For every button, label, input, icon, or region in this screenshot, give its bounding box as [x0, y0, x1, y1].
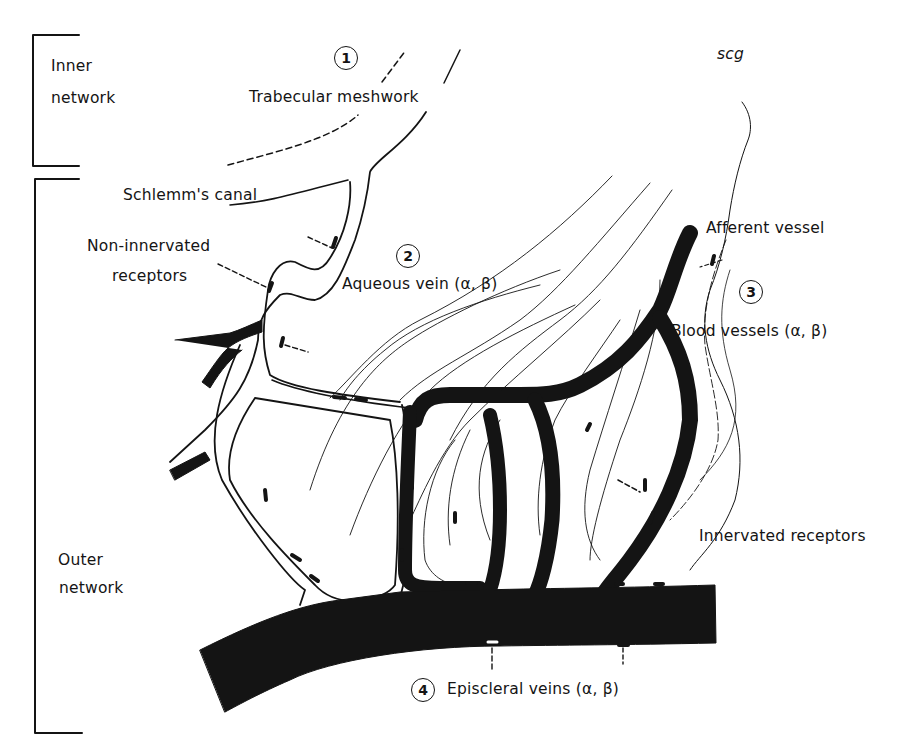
aqueous-loop-left: [229, 398, 398, 601]
trabecular-dash-1: [228, 115, 358, 165]
outer-network-label-line2: network: [59, 578, 123, 598]
outer-network-bracket: [35, 179, 82, 733]
afferent-vessel-label: Afferent vessel: [706, 218, 825, 238]
black-branch-vessel: [175, 320, 262, 388]
trabecular-line: [444, 50, 460, 83]
outflow-diagram: [0, 0, 923, 754]
pointer-noninnervated-3: [285, 345, 308, 352]
pointer-innervated: [618, 480, 640, 492]
pointer-noninnervated-2: [218, 264, 268, 288]
region-number-1: 1: [334, 46, 358, 70]
outer-network-label-line1: Outer: [58, 550, 103, 570]
trabecular-meshwork-label: Trabecular meshwork: [249, 87, 419, 107]
aqueous-vein-label: Aqueous vein (α, β): [342, 274, 497, 294]
inner-network-label-line2: network: [51, 88, 115, 108]
region-number-2: 2: [396, 244, 420, 268]
nerve-fibers: [310, 176, 672, 585]
episcleral-veins-label: Episcleral veins (α, β): [447, 679, 619, 699]
scg-label: scg: [717, 44, 744, 64]
region-number-3: 3: [739, 280, 763, 304]
pointer-noninnervated-1: [308, 237, 332, 248]
inner-network-label-line1: Inner: [51, 56, 92, 76]
blood-vessel-left-arm: [405, 412, 480, 588]
blood-vessels-label: Blood vessels (α, β): [671, 321, 827, 341]
trabecular-dash-2: [382, 50, 406, 82]
blood-vessel-loop: [415, 233, 690, 420]
region-number-4: 4: [411, 678, 435, 702]
non-innervated-label-line1: Non-innervated: [87, 236, 210, 256]
schlemm-canal-label: Schlemm's canal: [123, 185, 257, 205]
non-innervated-label-line2: receptors: [112, 266, 187, 286]
blood-vessel-mid-arm: [535, 400, 553, 595]
innervated-receptors-label: Innervated receptors: [699, 526, 866, 546]
